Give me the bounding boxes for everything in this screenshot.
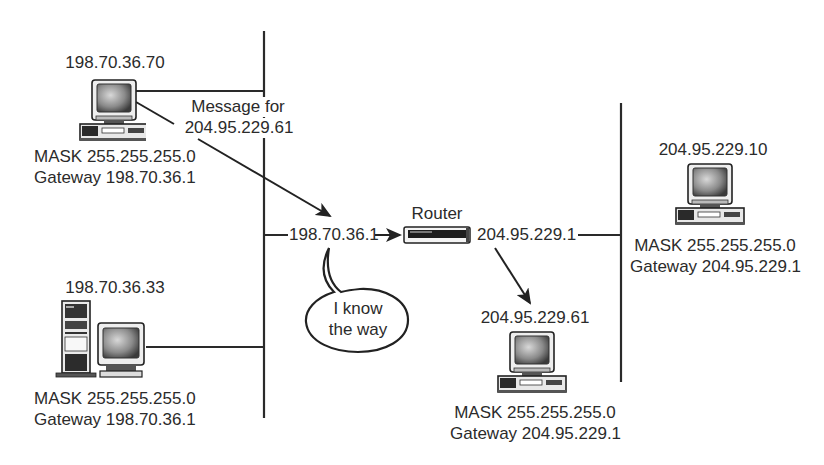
tower-computer-icon [54, 299, 148, 381]
host-c-gateway: Gateway 204.95.229.1 [630, 257, 800, 277]
router-left-interface-ip: 198.70.36.1 [289, 225, 379, 245]
host-a [62, 78, 146, 148]
router-right-interface-ip: 204.95.229.1 [477, 225, 576, 245]
host-b-ip: 198.70.36.33 [56, 278, 174, 298]
router-icon [404, 227, 470, 243]
host-c-mask: MASK 255.255.255.0 [630, 236, 800, 256]
message-label-line1: Message for [176, 97, 300, 117]
host-d-ip: 204.95.229.61 [470, 308, 600, 328]
router-egress-arrow [495, 248, 530, 303]
host-b [54, 299, 148, 385]
desktop-computer-icon [62, 78, 146, 144]
desktop-computer-icon [668, 162, 752, 228]
host-b-mask: MASK 255.255.255.0 [34, 389, 196, 409]
message-label-line2: 204.95.229.61 [178, 118, 300, 138]
desktop-computer-icon [490, 330, 574, 396]
host-b-gateway: Gateway 198.70.36.1 [34, 410, 196, 430]
host-a-gateway: Gateway 198.70.36.1 [34, 168, 196, 188]
host-d-gateway: Gateway 204.95.229.1 [450, 424, 620, 444]
host-d [490, 330, 574, 400]
speech-bubble-text-line2: the way [318, 320, 398, 340]
host-a-ip: 198.70.36.70 [56, 53, 174, 73]
host-c-ip: 204.95.229.10 [648, 140, 778, 160]
host-d-mask: MASK 255.255.255.0 [450, 403, 620, 423]
host-c [668, 162, 752, 232]
speech-bubble-text-line1: I know [318, 299, 398, 319]
router-label: Router [404, 204, 470, 224]
host-a-mask: MASK 255.255.255.0 [34, 147, 196, 167]
